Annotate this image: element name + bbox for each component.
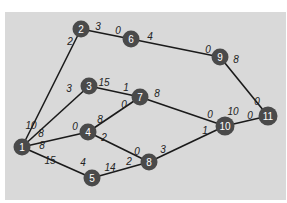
node-9: 9 — [212, 49, 229, 66]
edge-label-6-9-to: 0 — [205, 44, 211, 55]
node-4: 4 — [80, 124, 97, 141]
edge-label-4-8-from: 2 — [100, 132, 107, 143]
node-7: 7 — [132, 89, 149, 106]
edge-label-1-3-from: 8 — [38, 128, 44, 139]
edge-label-1-2-to: 2 — [66, 36, 73, 47]
edge-label-2-6-to: 0 — [115, 25, 121, 36]
node-10: 10 — [216, 117, 235, 136]
edge-label-10-11-from: 10 — [227, 106, 239, 117]
edge-label-9-11-to: 0 — [254, 96, 260, 107]
edge-label-4-7-from: 8 — [97, 114, 103, 125]
node-6: 6 — [123, 31, 140, 48]
node-label: 5 — [89, 173, 95, 184]
edge-label-10-11-to: 0 — [247, 110, 253, 121]
edge-label-1-3-to: 3 — [66, 83, 72, 94]
edge-label-4-8-to: 0 — [134, 146, 140, 157]
node-label: 6 — [128, 34, 134, 45]
edge-label-1-5-to: 4 — [80, 157, 86, 168]
edge-label-1-5-from: 15 — [44, 155, 56, 166]
edge-label-5-8-from: 14 — [104, 162, 116, 173]
edge-label-1-2-from: 10 — [25, 120, 37, 131]
node-1: 1 — [14, 139, 31, 156]
edge-label-3-7-to: 1 — [123, 82, 129, 93]
node-label: 7 — [137, 92, 143, 103]
edge-label-9-11-from: 8 — [233, 54, 239, 65]
edge-label-7-10-from: 8 — [154, 88, 160, 99]
edge-label-1-4-from: 8 — [39, 140, 45, 151]
edge-label-8-10-from: 3 — [160, 144, 166, 155]
node-label: 8 — [146, 157, 152, 168]
edge-label-4-7-to: 0 — [121, 99, 127, 110]
node-5: 5 — [84, 170, 101, 187]
edge-label-8-10-to: 1 — [202, 125, 208, 136]
node-2: 2 — [73, 21, 90, 38]
node-11: 11 — [259, 107, 278, 126]
node-label: 10 — [219, 121, 231, 132]
diagram-background — [5, 12, 286, 200]
node-label: 1 — [19, 142, 25, 153]
edge-label-5-8-to: 2 — [125, 156, 132, 167]
node-label: 2 — [78, 24, 84, 35]
edge-label-1-4-to: 0 — [72, 121, 78, 132]
edge-label-7-10-to: 0 — [207, 109, 213, 120]
edge-label-2-6-from: 3 — [95, 21, 101, 32]
node-label: 9 — [217, 52, 223, 63]
edge-label-6-9-from: 4 — [147, 31, 153, 42]
edge-label-3-7-from: 15 — [98, 77, 110, 88]
network-diagram: 102838015430151802014240803180100 123456… — [0, 0, 287, 203]
node-label: 11 — [263, 111, 274, 122]
node-label: 4 — [85, 127, 91, 138]
node-8: 8 — [141, 154, 158, 171]
node-label: 3 — [86, 81, 92, 92]
node-3: 3 — [81, 78, 98, 95]
